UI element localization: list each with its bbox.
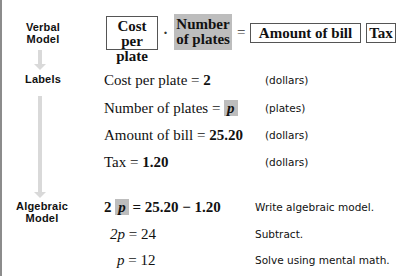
label-row-tax: Tax = 1.20: [104, 153, 169, 171]
step-label-text: Verbal: [26, 21, 60, 33]
equation-lhs: 2p: [110, 226, 125, 242]
operator-times: ·: [163, 26, 168, 41]
flow-arrow-shaft: [38, 96, 42, 192]
verbal-box-tax: Tax: [366, 23, 396, 43]
verbal-box-amount-of-bill: Amount of bill: [250, 23, 361, 43]
equals-sign: =: [126, 154, 142, 170]
step-label-text: Algebraic: [16, 200, 68, 212]
equation-lhs: p: [117, 252, 125, 268]
left-margin-rule: [0, 0, 2, 276]
verbal-box-text: of plates: [175, 32, 231, 47]
coefficient: 2: [104, 199, 112, 215]
equals-sign: =: [208, 100, 224, 116]
variable-highlight-p: p: [224, 100, 238, 116]
label-row-cost-per-plate: Cost per plate = 2: [104, 71, 211, 89]
step-label-text: Model: [26, 212, 59, 224]
step-label-text: Model: [27, 33, 60, 45]
label-row-number-of-plates: Number of plates = p: [104, 99, 238, 117]
variable-highlight-p: p: [115, 199, 129, 215]
equation-rhs: = 25.20 − 1.20: [129, 199, 221, 215]
label-value: 25.20: [209, 127, 243, 143]
flow-arrow-head: [34, 64, 46, 70]
flow-arrow-head: [34, 192, 46, 198]
label-value: 1.20: [142, 154, 168, 170]
verbal-box-text: Cost per: [107, 19, 157, 49]
step-note: Write algebraic model.: [255, 200, 374, 214]
verbal-box-number-of-plates: Number of plates: [174, 14, 232, 50]
label-unit: (dollars): [265, 73, 308, 87]
step-label-algebraic-model: Algebraic Model: [10, 201, 74, 225]
label-unit: (dollars): [265, 155, 308, 169]
equals-sign: =: [187, 72, 203, 88]
verbal-box-text: Number: [175, 17, 231, 32]
step-label-labels: Labels: [18, 74, 68, 86]
step-note: Solve using mental math.: [255, 253, 390, 267]
label-row-amount-of-bill: Amount of bill = 25.20: [104, 126, 243, 144]
equation-rhs: = 24: [125, 226, 156, 242]
equation-algebraic-model: 2 p = 25.20 − 1.20: [104, 198, 221, 216]
label-value: 2: [203, 72, 211, 88]
flow-arrow-shaft: [38, 50, 42, 64]
label-name: Number of plates: [104, 100, 208, 116]
equation-rhs: = 12: [125, 252, 156, 268]
equation-solution: p = 12: [117, 251, 155, 269]
label-unit: (dollars): [265, 128, 308, 142]
step-label-verbal-model: Verbal Model: [18, 22, 68, 46]
verbal-model-worked-example: Verbal Model Labels Algebraic Model Cost…: [0, 0, 402, 276]
verbal-box-text: plate: [107, 49, 157, 64]
step-label-text: Labels: [25, 73, 61, 85]
label-name: Cost per plate: [104, 72, 187, 88]
equals-sign: =: [193, 127, 209, 143]
label-unit: (plates): [265, 101, 305, 115]
operator-equals: =: [237, 25, 245, 40]
equation-subtract: 2p = 24: [110, 225, 156, 243]
step-note: Subtract.: [255, 227, 303, 241]
verbal-box-cost-per-plate: Cost per plate: [106, 16, 158, 50]
label-name: Amount of bill: [104, 127, 193, 143]
label-name: Tax: [104, 154, 126, 170]
